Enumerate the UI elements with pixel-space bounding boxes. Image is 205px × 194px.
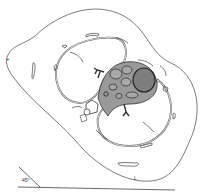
thorax-cross-section-diagram: [0, 0, 205, 194]
left-marker-label: +: [6, 56, 10, 62]
bottom-marker-label: L: [134, 176, 137, 181]
heart-chamber-large: [133, 68, 155, 92]
angle-label: 45°: [22, 178, 30, 183]
horizontal-baseline: [18, 187, 175, 190]
